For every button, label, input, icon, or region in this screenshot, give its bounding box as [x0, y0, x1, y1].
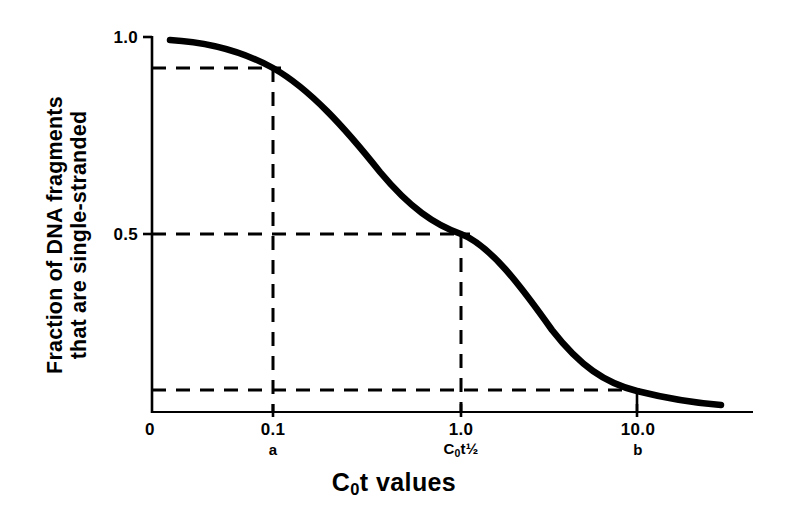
x-axis-title-c: C [332, 468, 350, 496]
x-tick-label-1.0: 1.0 [436, 420, 486, 440]
y-tick-label-0.5: 0.5 [96, 225, 138, 245]
plot-area [0, 0, 788, 525]
cot-half-c: C [444, 440, 455, 457]
x-tick-label-10.0: 10.0 [610, 420, 666, 440]
x-axis-title-sub-zero: 0 [350, 480, 360, 498]
y-tick-label-1.0: 1.0 [96, 28, 138, 48]
x-sub-label-b: b [610, 441, 666, 458]
chart-figure: Fraction of DNA fragments that are singl… [0, 0, 788, 525]
x-sub-label-a: a [248, 441, 298, 458]
cot-half-rest: t½ [461, 440, 479, 457]
x-sub-label-cot-half: C0t½ [426, 440, 496, 459]
x-tick-label-0: 0 [130, 420, 170, 440]
x-tick-label-0.1: 0.1 [248, 420, 298, 440]
x-axis-title-rest: t values [360, 468, 456, 496]
x-axis-title: C0t values [0, 468, 788, 499]
cot-curve [170, 40, 721, 405]
